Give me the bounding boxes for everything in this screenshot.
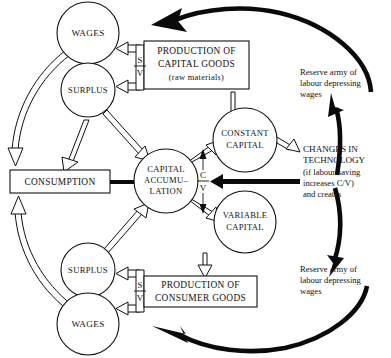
surplus-top-label: SURPLUS	[68, 85, 108, 95]
reserve-army-bottom-line1: Reserve army of	[300, 264, 357, 274]
production-consumer-goods-line1: PRODUCTION OF	[161, 280, 240, 290]
variable-capital-line1: VARIABLE	[223, 210, 268, 220]
technology-line3: (if labour-saving	[303, 167, 361, 177]
consumption-label: CONSUMPTION	[24, 177, 95, 187]
wages-bottom-label: WAGES	[71, 319, 104, 329]
variable-capital-line2: CAPITAL	[226, 222, 264, 232]
constant-capital-line2: CAPITAL	[226, 140, 264, 150]
node-wages-top[interactable]: WAGES	[57, 2, 119, 64]
technology-line1: CHANGES IN	[303, 144, 358, 154]
node-constant-capital[interactable]: CONSTANT CAPITAL	[213, 108, 277, 172]
fraction-sv-bottom-denominator: V	[137, 293, 144, 303]
reserve-army-bottom-line2: labour depressing	[300, 275, 362, 285]
node-surplus-bottom[interactable]: SURPLUS	[61, 243, 115, 297]
node-production-capital-goods[interactable]: PRODUCTION OF CAPITAL GOODS (raw materia…	[144, 41, 249, 89]
fraction-sv-top-numerator: S	[137, 55, 142, 65]
wages-top-label: WAGES	[71, 28, 104, 38]
reserve-army-top-line3: wages	[300, 89, 322, 99]
production-capital-goods-line1: PRODUCTION OF	[157, 46, 236, 56]
fraction-cv-numerator: C	[200, 170, 206, 180]
node-wages-bottom[interactable]: WAGES	[57, 293, 119, 355]
nodes-layer: WAGES SURPLUS CONSUMPTION CAPITAL ACCUMU…	[0, 0, 391, 358]
fraction-cv-center: C V	[197, 170, 209, 193]
annotation-reserve-army-top: Reserve army of labour depressing wages	[300, 67, 362, 99]
surplus-bottom-label: SURPLUS	[68, 265, 108, 275]
fraction-cv-denominator: V	[200, 183, 207, 193]
technology-line5: and creates	[303, 189, 342, 199]
node-consumption[interactable]: CONSUMPTION	[10, 170, 110, 193]
node-capital-accumulation[interactable]: CAPITAL ACCUMU– LATION	[134, 149, 198, 213]
production-capital-goods-line3: (raw materials)	[169, 73, 224, 82]
reserve-army-bottom-line3: wages	[300, 286, 322, 296]
capital-accumulation-diagram: WAGES SURPLUS CONSUMPTION CAPITAL ACCUMU…	[0, 0, 391, 358]
node-variable-capital[interactable]: VARIABLE CAPITAL	[214, 191, 276, 253]
technology-line2: TECHNOLOGY	[303, 155, 366, 165]
fraction-sv-top-denominator: V	[137, 68, 144, 78]
annotation-technology: CHANGES IN TECHNOLOGY (if labour-saving …	[303, 144, 366, 199]
capital-accumulation-line3: LATION	[150, 186, 183, 196]
production-capital-goods-line2: CAPITAL GOODS	[158, 59, 235, 69]
capital-accumulation-line1: CAPITAL	[147, 164, 185, 174]
annotation-reserve-army-bottom: Reserve army of labour depressing wages	[300, 264, 362, 296]
capital-accumulation-line2: ACCUMU–	[144, 175, 189, 185]
constant-capital-line1: CONSTANT	[221, 128, 269, 138]
technology-line4: increases C/V)	[303, 178, 354, 188]
node-production-consumer-goods[interactable]: PRODUCTION OF CONSUMER GOODS	[144, 276, 257, 307]
production-consumer-goods-line2: CONSUMER GOODS	[155, 293, 246, 303]
reserve-army-top-line2: labour depressing	[300, 78, 362, 88]
node-surplus-top[interactable]: SURPLUS	[61, 63, 115, 117]
fraction-sv-bottom-numerator: S	[137, 280, 142, 290]
reserve-army-top-line1: Reserve army of	[300, 67, 357, 77]
